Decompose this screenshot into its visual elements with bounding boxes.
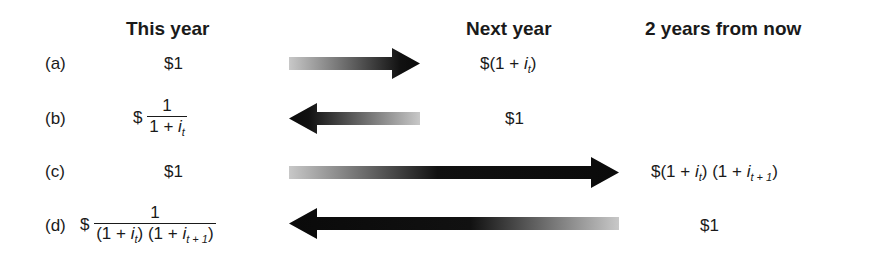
row-c-this-year: $1 bbox=[164, 162, 183, 182]
text: ) (1 + bbox=[702, 162, 747, 181]
header-two-years: 2 years from now bbox=[645, 18, 801, 40]
row-c-two-years: $(1 + it) (1 + it + 1) bbox=[651, 162, 778, 183]
text: ) (1 + bbox=[138, 224, 183, 243]
sub-t-plus-1: t + 1 bbox=[186, 233, 208, 245]
text: ) bbox=[772, 162, 778, 181]
row-a-this-year: $1 bbox=[164, 54, 183, 74]
dollar: $ bbox=[80, 215, 89, 234]
denominator: 1 + it bbox=[147, 116, 187, 142]
arrow-right-icon bbox=[289, 48, 421, 79]
row-a-next-year: $(1 + it) bbox=[480, 54, 536, 75]
text: $(1 + bbox=[480, 54, 524, 73]
sub-t: t bbox=[182, 126, 185, 138]
row-b-next-year: $1 bbox=[505, 109, 524, 129]
numerator: 1 bbox=[148, 203, 161, 223]
text: (1 + bbox=[96, 224, 131, 243]
row-label-a: (a) bbox=[45, 54, 66, 74]
denominator: (1 + it) (1 + it + 1) bbox=[94, 223, 215, 249]
row-d-this-year: $ 1 (1 + it) (1 + it + 1) bbox=[80, 203, 216, 249]
arrow-left-icon bbox=[289, 103, 421, 134]
text: ) bbox=[208, 224, 214, 243]
row-label-b: (b) bbox=[45, 109, 66, 129]
arrow-left-long-icon bbox=[289, 208, 620, 239]
header-next-year: Next year bbox=[466, 18, 552, 40]
fraction: 1 (1 + it) (1 + it + 1) bbox=[94, 203, 215, 249]
sub-t-plus-1: t + 1 bbox=[750, 171, 772, 183]
text: 1 + bbox=[149, 117, 178, 136]
fraction: 1 1 + it bbox=[147, 96, 187, 142]
row-label-c: (c) bbox=[45, 162, 65, 182]
text: $(1 + bbox=[651, 162, 695, 181]
text: ) bbox=[531, 54, 537, 73]
row-label-d: (d) bbox=[45, 216, 66, 236]
header-this-year: This year bbox=[126, 18, 209, 40]
row-b-this-year: $ 1 1 + it bbox=[133, 96, 187, 142]
arrow-right-long-icon bbox=[289, 157, 620, 188]
numerator: 1 bbox=[160, 96, 173, 116]
row-d-two-years: $1 bbox=[700, 216, 719, 236]
dollar: $ bbox=[133, 108, 142, 127]
